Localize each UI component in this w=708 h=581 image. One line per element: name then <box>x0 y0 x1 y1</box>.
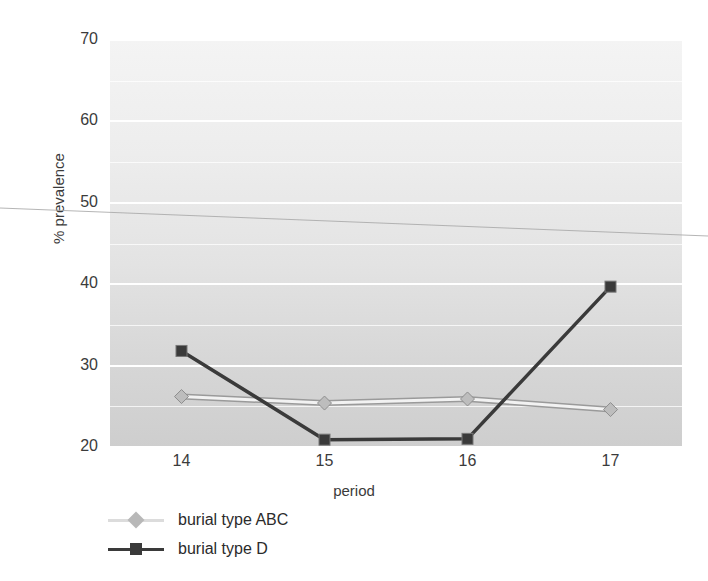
square-marker <box>319 434 330 445</box>
plot-area <box>110 40 682 447</box>
series-layer <box>110 40 682 447</box>
x-axis-title: period <box>0 482 708 499</box>
diamond-marker <box>461 392 475 406</box>
square-marker <box>605 281 616 292</box>
y-tick-label: 60 <box>58 111 98 129</box>
y-tick-label: 40 <box>58 274 98 292</box>
y-tick-label: 30 <box>58 356 98 374</box>
diamond-marker <box>318 396 332 410</box>
square-marker <box>462 433 473 444</box>
diamond-marker <box>175 390 189 404</box>
square-marker-icon <box>130 543 142 555</box>
legend-item-burial-type-abc: burial type ABC <box>108 505 288 534</box>
series-line <box>182 287 611 440</box>
y-tick-label: 20 <box>58 437 98 455</box>
legend-key-d <box>108 540 164 558</box>
diamond-marker <box>604 403 618 417</box>
chart-legend: burial type ABC burial type D <box>108 505 288 563</box>
x-tick-label: 16 <box>443 452 493 470</box>
x-tick-label: 14 <box>157 452 207 470</box>
legend-item-burial-type-d: burial type D <box>108 534 288 563</box>
y-tick-label: 70 <box>58 30 98 48</box>
legend-label-abc: burial type ABC <box>178 511 288 529</box>
diamond-marker-icon <box>128 511 145 528</box>
series-burial-type-d <box>176 281 616 445</box>
square-marker <box>176 345 187 356</box>
x-tick-label: 17 <box>586 452 636 470</box>
legend-key-abc <box>108 511 164 529</box>
y-axis-title: % prevalence <box>50 139 67 259</box>
x-tick-label: 15 <box>300 452 350 470</box>
legend-label-d: burial type D <box>178 540 268 558</box>
series-burial-type-abc <box>175 390 618 417</box>
chart-page: 706050403020 14151617 % prevalence perio… <box>0 0 708 581</box>
